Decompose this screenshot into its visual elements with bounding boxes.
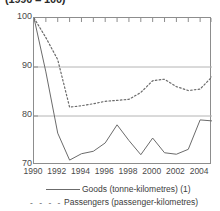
legend-item-passengers: - - - - Passengers (passenger-kilometres… (0, 196, 220, 209)
x-axis-tick-1990: 1990 (24, 166, 43, 176)
x-axis-tick-2002: 2002 (166, 166, 185, 176)
legend-solid-line-icon (46, 185, 80, 194)
series-line-goods (34, 18, 212, 160)
gridlines (34, 67, 212, 116)
y-axis-tick-marks (34, 67, 38, 116)
transport-index-chart: (1990 = 100) 100 90 80 70 1990 1992 1994… (0, 0, 220, 211)
y-axis-tick-90: 90 (0, 60, 32, 70)
legend-item-goods: Goods (tonne-kilometres) (1) (0, 183, 220, 196)
x-axis-tick-2000: 2000 (142, 166, 161, 176)
x-axis-tick-1994: 1994 (71, 166, 90, 176)
chart-legend: Goods (tonne-kilometres) (1) - - - - Pas… (0, 183, 220, 209)
x-axis-tick-1992: 1992 (47, 166, 66, 176)
legend-label-passengers: Passengers (passenger-kilometres) (64, 197, 198, 208)
chart-title: (1990 = 100) (5, 0, 65, 5)
top-axis-ticks (34, 18, 212, 22)
legend-label-goods: Goods (tonne-kilometres) (1) (82, 184, 191, 195)
series-line-passengers (34, 18, 212, 107)
plot-area (33, 17, 211, 164)
plot-canvas (34, 18, 212, 165)
y-axis-tick-100: 100 (0, 11, 32, 21)
y-axis-tick-80: 80 (0, 109, 32, 119)
x-axis-tick-1996: 1996 (95, 166, 114, 176)
x-axis-tick-1998: 1998 (118, 166, 137, 176)
legend-dashed-line-icon: - - - - (30, 198, 64, 208)
x-axis-tick-2004: 2004 (190, 166, 209, 176)
